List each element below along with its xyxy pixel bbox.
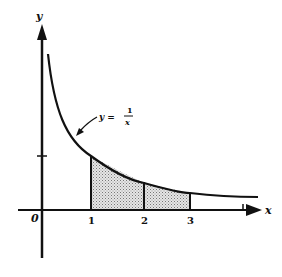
- equation-label: y = 1 x: [98, 105, 133, 127]
- x-tick-label-2: 2: [141, 215, 148, 226]
- origin-label: 0: [31, 212, 39, 225]
- y-axis-label: y: [35, 10, 44, 23]
- equation-leader-line: [80, 117, 97, 131]
- y-axis-arrow-icon: [37, 24, 47, 40]
- x-tick-label-3: 3: [187, 215, 194, 226]
- x-tick-label-1: 1: [88, 215, 95, 226]
- leader-arrow-icon: [76, 128, 84, 136]
- equation-lhs: y =: [98, 112, 115, 122]
- equation-numerator: 1: [127, 105, 133, 115]
- diagram-canvas: y x 0 1 2 3 y = 1 x: [0, 0, 282, 277]
- x-axis-arrow-icon: [246, 204, 262, 216]
- x-axis-label: x: [264, 204, 272, 217]
- curve-reciprocal: [48, 54, 258, 197]
- equation-denominator: x: [124, 117, 130, 127]
